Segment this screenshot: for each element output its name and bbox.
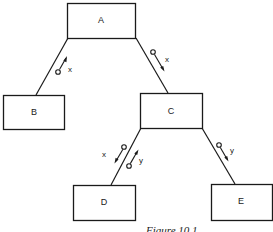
message-origin-circle-icon [122,145,127,150]
node-a-label: A [98,15,104,25]
message-label: x [102,150,106,159]
edge-a-c [136,38,168,93]
arrow-up-icon [134,150,138,156]
node-c-label: C [168,106,175,116]
message-origin-circle-icon [56,70,61,75]
node-c: C [141,94,203,129]
message-x-b-to-a: x [56,56,72,74]
message-label: y [139,156,143,165]
tree-diagram: A B C D E x x x y [0,0,273,232]
figure-caption: Figure 10.1 [145,224,198,232]
node-e: E [212,185,273,221]
message-y-c-to-e: y [217,143,234,162]
node-e-label: E [238,196,244,206]
arrow-down-icon [224,156,228,162]
edge-c-d [111,128,141,185]
message-origin-circle-icon [151,50,156,55]
arrow-down-icon [160,66,164,72]
node-b: B [4,96,65,130]
edge-c-e [202,128,235,184]
node-d: D [74,186,136,221]
edge-a-b [36,38,68,95]
message-label: y [230,146,234,155]
message-origin-circle-icon [127,164,132,169]
message-origin-circle-icon [217,143,222,148]
message-y-d-to-c: y [127,150,143,169]
node-d-label: D [101,197,108,207]
message-label: x [68,65,72,74]
message-x-c-to-d: x [102,145,126,164]
node-a: A [68,4,136,39]
node-b-label: B [31,107,37,117]
message-label: x [165,55,169,64]
